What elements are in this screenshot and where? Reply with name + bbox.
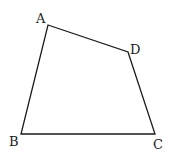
- vertex-label-c: C: [153, 137, 163, 152]
- quadrilateral-diagram: A D C B: [0, 0, 172, 156]
- vertex-label-d: D: [130, 42, 140, 57]
- vertex-label-a: A: [35, 11, 46, 26]
- vertex-label-b: B: [9, 134, 19, 149]
